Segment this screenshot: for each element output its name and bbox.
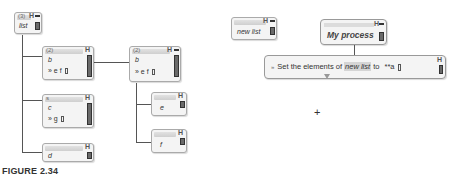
item-list: » e f	[135, 68, 155, 75]
connector	[22, 56, 42, 57]
h-icon[interactable]: H	[437, 56, 442, 63]
process-block[interactable]: H My process	[320, 19, 387, 45]
block-header	[154, 132, 176, 137]
item-count: s	[46, 95, 49, 101]
list-item-d[interactable]: H d	[42, 143, 94, 162]
expand-arrow-icon[interactable]: »	[271, 64, 274, 70]
connector	[136, 142, 151, 143]
set-elements-command-block[interactable]: »Set the elements of new list to **a H	[264, 55, 446, 79]
list-item-b[interactable]: (2) H b » e f	[42, 46, 94, 80]
drag-handle[interactable]	[87, 55, 92, 77]
process-title: My process	[327, 30, 374, 40]
drag-handle[interactable]	[270, 27, 275, 35]
item-count: (3)	[18, 13, 25, 19]
item-list: » e f	[48, 67, 68, 74]
expanded-list-item-b[interactable]: (2) H b » e f	[129, 46, 181, 82]
block-label: f	[160, 141, 162, 148]
empty-slot-icon[interactable]	[398, 64, 401, 71]
block-header	[154, 95, 176, 100]
figure-caption: FIGURE 2.34	[2, 166, 58, 176]
drag-handle[interactable]	[439, 65, 443, 74]
item-count: (2)	[46, 47, 53, 53]
block-header	[234, 20, 266, 25]
collapse-icon[interactable]	[379, 23, 384, 25]
connector	[354, 45, 355, 55]
block-label: e	[160, 104, 164, 111]
drag-handle[interactable]	[87, 103, 92, 125]
connector	[136, 104, 151, 105]
h-icon[interactable]: H	[85, 94, 90, 101]
block-header	[45, 97, 83, 102]
h-icon[interactable]: H	[85, 46, 90, 53]
variable-slot[interactable]: new list	[344, 62, 371, 71]
list-block[interactable]: (3) H list	[14, 12, 42, 34]
h-icon[interactable]: H	[85, 143, 90, 150]
block-label: c	[48, 104, 52, 111]
block-label: new list	[237, 28, 260, 35]
connector	[22, 35, 23, 153]
drag-handle[interactable]	[87, 152, 92, 159]
insertion-point-icon	[324, 74, 330, 79]
empty-slot-icon[interactable]	[61, 116, 64, 122]
collapse-icon[interactable]	[35, 15, 40, 17]
list-item-f[interactable]: H f	[151, 129, 187, 153]
connector	[22, 152, 42, 153]
list-item-c[interactable]: s H c » g	[42, 94, 94, 128]
h-icon[interactable]: H	[29, 12, 34, 19]
h-icon[interactable]: H	[167, 46, 172, 53]
empty-slot-icon[interactable]	[152, 69, 155, 75]
drag-handle[interactable]	[180, 138, 185, 145]
block-label: b	[48, 56, 52, 63]
connector	[94, 62, 129, 63]
item-list: » g	[48, 115, 64, 122]
drag-handle[interactable]	[174, 55, 179, 77]
connector	[136, 83, 137, 143]
drag-handle[interactable]	[180, 101, 185, 108]
empty-slot-icon[interactable]	[65, 68, 68, 74]
h-icon[interactable]: H	[178, 129, 183, 136]
crosshair-cursor: +	[314, 106, 320, 118]
collapse-icon[interactable]	[174, 49, 179, 51]
block-label: b	[135, 56, 139, 63]
h-icon[interactable]: H	[178, 92, 183, 99]
new-list-variable-block[interactable]: H new list	[231, 17, 277, 40]
list-item-e[interactable]: H e	[151, 92, 187, 116]
block-header	[45, 146, 83, 151]
connector	[22, 100, 42, 101]
block-label: d	[48, 152, 52, 159]
item-count: (2)	[133, 47, 140, 53]
h-icon[interactable]: H	[263, 17, 268, 24]
drag-handle[interactable]	[379, 32, 384, 41]
command-text: »Set the elements of new list to **a	[271, 62, 401, 71]
block-header	[324, 23, 374, 27]
drag-handle[interactable]	[35, 22, 40, 30]
collapse-icon[interactable]	[270, 20, 275, 22]
block-label: list	[19, 22, 28, 29]
value-field[interactable]: **a	[385, 62, 395, 71]
